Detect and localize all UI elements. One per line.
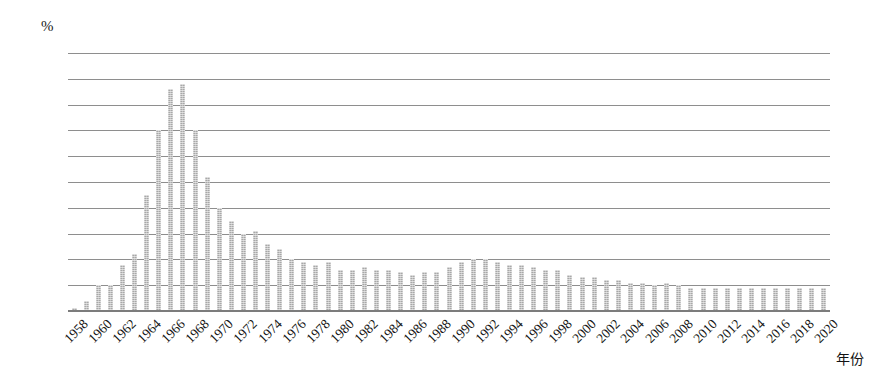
bar [289, 259, 294, 311]
x-axis-tick-label: 2020 [812, 317, 841, 346]
x-axis-tick-label: 2018 [788, 317, 817, 346]
x-axis-tick-label: 2002 [594, 317, 623, 346]
bar [507, 265, 512, 311]
x-axis-tick-label: 1972 [231, 317, 260, 346]
x-axis-tick-label: 2012 [715, 317, 744, 346]
bar [362, 267, 367, 311]
bar [761, 288, 766, 311]
bar [737, 288, 742, 311]
x-axis-tick-label: 1984 [376, 317, 405, 346]
bar [217, 208, 222, 311]
x-axis-tick-label: 2000 [570, 317, 599, 346]
bar [604, 280, 609, 311]
plot-area: 00.511.522.533.544.55 [68, 53, 830, 311]
x-axis-tick-label: 2014 [739, 317, 768, 346]
bar [749, 288, 754, 311]
bar [120, 265, 125, 311]
bar [205, 177, 210, 311]
x-axis-tick-label: 2008 [667, 317, 696, 346]
x-axis-tick-label: 1982 [352, 317, 381, 346]
x-axis-tick-label: 2016 [763, 317, 792, 346]
bar [398, 272, 403, 311]
x-axis-tick-label: 1992 [473, 317, 502, 346]
x-axis-tick-label: 1958 [62, 317, 91, 346]
bar [180, 84, 185, 311]
bar [676, 285, 681, 311]
x-axis-tick-label: 1962 [110, 317, 139, 346]
bar [338, 270, 343, 311]
bar [96, 285, 101, 311]
bar [701, 288, 706, 311]
x-axis-tick-label: 1960 [86, 317, 115, 346]
bar [713, 288, 718, 311]
bar [374, 270, 379, 311]
bar [241, 234, 246, 311]
x-axis-tick-label: 1978 [304, 317, 333, 346]
bar [688, 288, 693, 311]
bar [434, 272, 439, 311]
x-axis-tick-label: 1988 [425, 317, 454, 346]
x-axis-tick-label: 1994 [497, 317, 526, 346]
x-axis-title: 年份 [836, 348, 864, 368]
x-axis-tick-label: 1996 [522, 317, 551, 346]
x-axis-line [68, 310, 830, 312]
x-axis-tick-label: 1986 [401, 317, 430, 346]
bar [422, 272, 427, 311]
bar [313, 265, 318, 311]
bar [652, 285, 657, 311]
bar [785, 288, 790, 311]
bar [592, 277, 597, 311]
bar [519, 265, 524, 311]
bar [265, 244, 270, 311]
bar [628, 283, 633, 311]
bar [386, 270, 391, 311]
bar [193, 130, 198, 311]
bar [326, 262, 331, 311]
bar [253, 231, 258, 311]
bar [543, 270, 548, 311]
x-axis-tick-label: 1968 [183, 317, 212, 346]
bar [277, 249, 282, 311]
x-axis-tick-label: 1970 [207, 317, 236, 346]
bar [156, 130, 161, 311]
bar [725, 288, 730, 311]
x-axis-tick-label: 1974 [255, 317, 284, 346]
x-axis-tick-label: 1966 [159, 317, 188, 346]
x-axis-tick-label: 2006 [643, 317, 672, 346]
x-axis-tick-label: 1998 [546, 317, 575, 346]
bar [229, 221, 234, 311]
bar [132, 254, 137, 311]
x-axis-tick-label: 1976 [280, 317, 309, 346]
bar [471, 259, 476, 311]
bar [809, 288, 814, 311]
bar [580, 277, 585, 311]
bar [773, 288, 778, 311]
bar [483, 259, 488, 311]
bar-series [68, 53, 830, 311]
bar [616, 280, 621, 311]
x-axis-tick-label: 1990 [449, 317, 478, 346]
bar [555, 270, 560, 311]
x-axis-tick-label: 2010 [691, 317, 720, 346]
bar [108, 285, 113, 311]
bar [350, 270, 355, 311]
bar [495, 262, 500, 311]
bar [168, 89, 173, 311]
bar [459, 262, 464, 311]
bar [144, 195, 149, 311]
bar [531, 267, 536, 311]
bar [797, 288, 802, 311]
x-axis-tick-label: 2004 [618, 317, 647, 346]
bar [640, 283, 645, 311]
bar [821, 288, 826, 311]
bar [410, 275, 415, 311]
bar-chart: % 00.511.522.533.544.55 1958196019621964… [0, 0, 882, 379]
y-axis-unit-label: % [41, 18, 54, 35]
x-axis-tick-label: 1980 [328, 317, 357, 346]
bar [301, 262, 306, 311]
x-axis-tick-labels: 1958196019621964196619681970197219741976… [68, 313, 830, 365]
bar [567, 275, 572, 311]
x-axis-tick-label: 1964 [135, 317, 164, 346]
bar [664, 283, 669, 311]
bar [447, 267, 452, 311]
